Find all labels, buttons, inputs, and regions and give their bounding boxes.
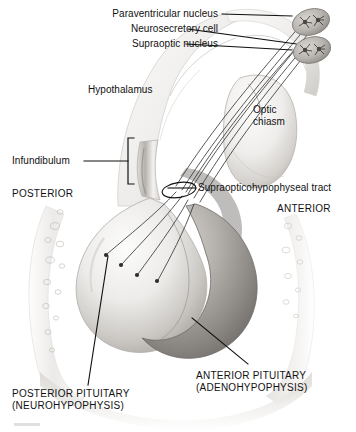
label-optic-chiasm: Optic chiasm	[253, 104, 307, 127]
label-anterior-direction: ANTERIOR	[277, 203, 331, 215]
label-supraopticohypophyseal-tract: Supraopticohypophyseal tract	[198, 182, 331, 194]
label-posterior-pituitary: POSTERIOR PITUITARY (NEUROHYPOPHYSIS)	[12, 388, 162, 411]
registration-mark	[14, 423, 40, 426]
optic-chiasm	[224, 75, 297, 188]
label-paraventricular-nucleus: Paraventricular nucleus	[61, 8, 218, 20]
label-supraoptic-nucleus: Supraoptic nucleus	[61, 38, 218, 50]
label-hypothalamus: Hypothalamus	[88, 84, 153, 96]
label-anterior-pituitary: ANTERIOR PITUITARY (ADENOHYPOPHYSIS)	[196, 370, 346, 393]
anatomy-figure: Paraventricular nucleus Neurosecretory c…	[0, 0, 356, 432]
label-neurosecretory-cell: Neurosecretory cell	[61, 23, 218, 35]
label-infundibulum: Infundibulum	[12, 155, 70, 167]
anatomy-illustration	[0, 0, 356, 432]
label-posterior-direction: POSTERIOR	[12, 188, 73, 200]
tract-marker-ellipse	[161, 180, 197, 200]
infundibulum-stalk	[137, 140, 160, 200]
